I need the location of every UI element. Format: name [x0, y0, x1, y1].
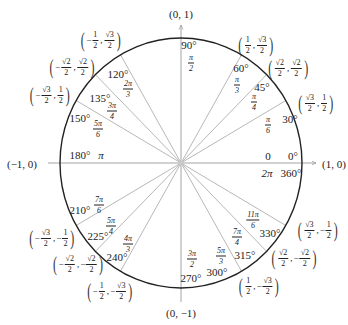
left-paren: (: [29, 228, 33, 248]
numerator: 3π: [107, 102, 117, 112]
axis-label-left: (−1, 0): [7, 158, 37, 170]
radial-line-240: [121, 163, 182, 271]
right-paren: ): [312, 248, 316, 268]
radial-line-120: [121, 55, 182, 163]
coordinate-label-210: (−√32,−12): [28, 228, 76, 248]
coordinate-label-150: (−√32,12): [28, 85, 71, 105]
degree-label-0: 0°: [288, 151, 298, 162]
degree-label-180: 180°: [70, 150, 91, 161]
denominator: 4: [110, 112, 114, 121]
degree-label-45: 45°: [254, 82, 269, 93]
radian-label-0: 0: [265, 151, 271, 162]
numerator: π: [251, 93, 257, 103]
numerator: 5π: [216, 247, 226, 257]
y-sign: −: [320, 225, 325, 235]
x-denominator: 2: [281, 259, 285, 268]
y-denominator: 2: [108, 41, 112, 50]
comma: ,: [100, 35, 102, 45]
degree-label-60: 60°: [233, 63, 248, 74]
y-numerator: 1: [58, 86, 64, 96]
right-paren: ): [334, 220, 338, 240]
degree-label-270: 270°: [181, 273, 202, 284]
y-denominator: 2: [119, 292, 123, 301]
radian-label-210: 7π6: [93, 196, 105, 215]
left-paren: (: [53, 254, 57, 274]
comma: ,: [73, 62, 75, 72]
x-denominator: 2: [246, 287, 250, 296]
numerator: 11π: [246, 211, 259, 221]
y-denominator: 2: [322, 104, 326, 113]
radial-line-210: [76, 163, 181, 226]
denominator: 6: [97, 206, 101, 215]
y-numerator: √3: [257, 36, 267, 46]
x-numerator: √3: [304, 221, 314, 231]
right-paren: ): [90, 57, 94, 77]
comma: ,: [107, 286, 109, 296]
degree-label-90: 90°: [181, 40, 196, 51]
comma: ,: [253, 40, 255, 50]
numerator: π: [234, 76, 240, 86]
coordinate-label-120: (−12,√32): [79, 30, 122, 50]
y-denominator: 2: [59, 96, 63, 105]
radian-label-330: 11π6: [245, 211, 260, 230]
x-denominator: 2: [44, 96, 48, 105]
left-paren: (: [30, 85, 34, 105]
x-denominator: 2: [100, 292, 104, 301]
y-numerator: √3: [116, 282, 126, 292]
numerator: 5π: [93, 120, 103, 130]
radian-label-90: π2: [187, 54, 195, 73]
x-sign: −: [93, 286, 98, 296]
x-denominator: 2: [308, 104, 312, 113]
right-paren: ): [66, 85, 70, 105]
left-paren: (: [268, 58, 272, 78]
left-paren: (: [238, 35, 242, 55]
degree-label-150: 150°: [70, 113, 91, 124]
coordinate-label-225: (−√22,−√22): [52, 254, 105, 274]
coordinate-label-315: (√22,−√22): [270, 248, 317, 268]
left-paren: (: [298, 220, 302, 240]
numerator: 3π: [187, 250, 197, 260]
numerator: π: [188, 54, 194, 64]
y-sign: −: [56, 233, 61, 243]
right-paren: ): [270, 35, 274, 55]
x-sign: −: [58, 259, 63, 269]
radian-label-2pi: 2π: [261, 168, 272, 179]
comma: ,: [287, 63, 289, 73]
y-numerator: 1: [321, 94, 327, 104]
left-paren: (: [298, 93, 302, 113]
denominator: 6: [96, 130, 100, 139]
y-numerator: √3: [104, 31, 114, 41]
numerator: 5π: [106, 217, 116, 227]
x-numerator: √2: [278, 249, 288, 259]
y-sign: −: [80, 259, 85, 269]
x-numerator: 1: [92, 31, 98, 41]
denominator: 3: [126, 90, 130, 99]
x-numerator: 1: [245, 36, 251, 46]
radian-label-120: 2π3: [122, 80, 134, 99]
y-numerator: √2: [291, 59, 301, 69]
comma: ,: [53, 233, 55, 243]
comma: ,: [290, 253, 292, 263]
origin-marker: [179, 161, 184, 166]
x-numerator: √3: [41, 229, 51, 239]
radian-label-225: 5π4: [105, 217, 117, 236]
coordinate-label-300: (12,−√32): [237, 276, 280, 296]
comma: ,: [77, 259, 79, 269]
x-denominator: 2: [64, 68, 68, 77]
coordinate-label-30: (√32,12): [297, 93, 335, 113]
denominator: 3: [219, 257, 223, 266]
left-paren: (: [81, 30, 85, 50]
comma: ,: [317, 98, 319, 108]
degree-label-315: 315°: [235, 250, 256, 261]
axis-label-right: (1, 0): [322, 158, 346, 170]
y-sign: −: [110, 286, 115, 296]
x-denominator: 2: [278, 69, 282, 78]
radian-label-135: 3π4: [106, 102, 118, 121]
radian-label-45: π4: [250, 93, 258, 112]
right-paren: ): [71, 228, 75, 248]
x-denominator: 2: [246, 46, 250, 55]
y-numerator: √2: [78, 58, 88, 68]
coordinate-label-45: (√22,√22): [267, 58, 309, 78]
right-paren: ): [117, 30, 121, 50]
right-paren: ): [99, 254, 103, 274]
